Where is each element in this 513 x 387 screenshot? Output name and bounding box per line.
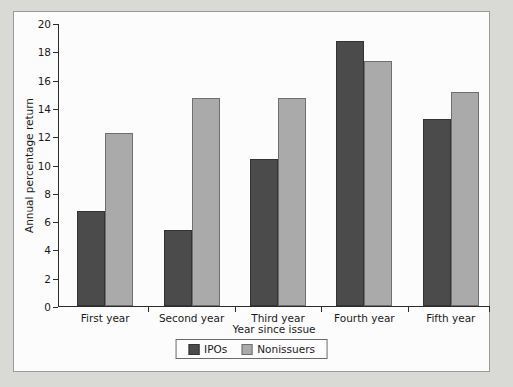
- y-axis-tick-mark: [53, 250, 58, 251]
- y-axis-tick-label: 8: [44, 186, 51, 202]
- bar-nonissuers: [105, 133, 133, 306]
- y-axis-tick-mark: [53, 81, 58, 82]
- y-axis-tick-mark: [53, 166, 58, 167]
- x-axis-tick-mark: [321, 307, 322, 312]
- bar-ipos: [336, 41, 364, 306]
- legend-label: Nonissuers: [257, 343, 315, 355]
- x-axis-title: Year since issue: [58, 323, 490, 335]
- y-axis-line: [58, 24, 59, 307]
- legend-entry-ipos: IPOs: [188, 343, 227, 355]
- x-axis-tick-mark: [148, 307, 149, 312]
- bar-ipos: [250, 159, 278, 306]
- legend-label: IPOs: [204, 343, 227, 355]
- y-axis-tick-label: 20: [38, 16, 51, 32]
- y-axis-tick-label: 14: [38, 101, 51, 117]
- bar-ipos: [77, 211, 105, 306]
- y-axis-tick-label: 2: [44, 271, 51, 287]
- bar-nonissuers: [278, 98, 306, 306]
- y-axis-tick-mark: [53, 24, 58, 25]
- legend-entry-nonissuers: Nonissuers: [241, 343, 315, 355]
- bar-ipos: [423, 119, 451, 306]
- y-axis-tick-mark: [53, 137, 58, 138]
- y-axis-tick-label: 18: [38, 44, 51, 60]
- y-axis-tick-label: 12: [38, 129, 51, 145]
- bar-nonissuers: [192, 98, 220, 306]
- y-axis-tick-label: 6: [44, 214, 51, 230]
- bar-nonissuers: [451, 92, 479, 306]
- x-axis-tick-mark: [235, 307, 236, 312]
- y-axis-tick-mark: [53, 307, 58, 308]
- y-axis-tick-label: 16: [38, 73, 51, 89]
- y-axis-tick-mark: [53, 279, 58, 280]
- y-axis-tick-mark: [53, 222, 58, 223]
- x-axis-tick-mark: [408, 307, 409, 312]
- x-axis-line: [58, 306, 490, 307]
- y-axis-title: Annual percentage return: [23, 24, 37, 307]
- y-axis-tick-mark: [53, 52, 58, 53]
- y-axis-tick-mark: [53, 109, 58, 110]
- legend-swatch-icon: [241, 344, 252, 355]
- y-axis-tick-label: 0: [44, 299, 51, 315]
- chart-panel: Annual percentage return 024681012141618…: [13, 11, 490, 372]
- y-axis-tick-label: 4: [44, 242, 51, 258]
- chart-legend: IPOsNonissuers: [175, 339, 328, 359]
- plot-area: 02468101214161820 First yearSecond yearT…: [58, 24, 490, 307]
- y-axis-tick-label: 10: [38, 158, 51, 174]
- x-axis-tick-mark: [489, 307, 490, 312]
- y-axis-tick-mark: [53, 194, 58, 195]
- bar-nonissuers: [364, 61, 392, 306]
- legend-swatch-icon: [188, 344, 199, 355]
- bar-ipos: [164, 230, 192, 306]
